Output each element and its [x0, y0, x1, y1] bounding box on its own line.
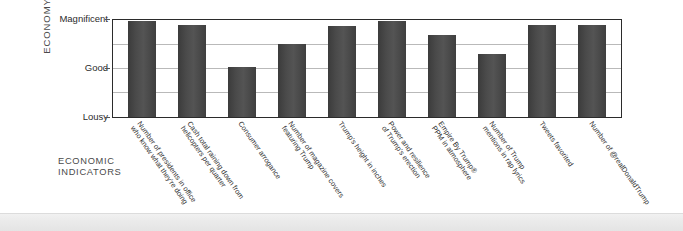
x-axis-label-group: Number of presidents in officewho know w… [112, 120, 622, 210]
x-axis-label-line1: Tweets favorited [537, 119, 575, 168]
bar [128, 21, 156, 117]
y-tick-label-good: Good [34, 63, 108, 73]
y-tick-mark-lousy [105, 117, 110, 118]
y-axis-tick-group: Magnificent Good Lousy [30, 0, 108, 231]
bar [178, 25, 206, 117]
bottom-strip [0, 213, 683, 231]
bar [528, 25, 556, 117]
bar-series [113, 20, 621, 117]
plot-area [112, 19, 622, 118]
y-tick-label-magnificent: Magnificent [34, 14, 108, 24]
x-axis-title: ECONOMIC INDICATORS [58, 156, 150, 178]
y-tick-mark-magnificent [105, 19, 110, 20]
bar [578, 25, 606, 117]
bar [428, 35, 456, 117]
bar [278, 44, 306, 117]
bottom-strip-divider [0, 213, 683, 214]
x-axis-label-line1: Consumer arrogance [236, 119, 283, 180]
x-axis-label-line1: Number of @realDonaldTrump [587, 119, 652, 206]
chart-page: ECONOMY Magnificent Good Lousy Number of… [0, 0, 683, 231]
bar [328, 26, 356, 117]
x-axis-label-line1: Number of magazine covers [286, 119, 346, 199]
y-tick-mark-good [105, 68, 110, 69]
bar [378, 21, 406, 117]
x-axis-label-line1: Cash total raining down from [186, 119, 247, 200]
bar [228, 67, 256, 117]
y-tick-label-lousy: Lousy [34, 112, 108, 122]
bar [478, 54, 506, 117]
